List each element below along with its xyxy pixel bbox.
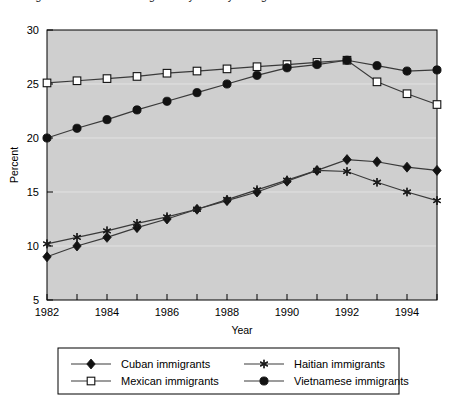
y-tick-label: 5 — [33, 294, 39, 306]
data-point — [223, 80, 231, 88]
legend-marker — [87, 377, 95, 385]
data-point — [373, 78, 381, 86]
data-point — [193, 67, 201, 75]
y-tick-label: 25 — [27, 78, 39, 90]
data-point — [133, 106, 141, 114]
data-point — [433, 66, 441, 74]
data-point — [403, 90, 411, 98]
chart-figure: Figure 1. Percent of immigrants by count… — [0, 0, 457, 404]
data-point — [43, 134, 51, 142]
data-point — [403, 67, 411, 75]
x-tick-label: 1984 — [95, 306, 119, 318]
line-chart: 51015202530 1982198419861988199019921994… — [0, 0, 457, 404]
data-point — [43, 79, 51, 87]
data-point — [73, 77, 81, 85]
y-tick-label: 20 — [27, 132, 39, 144]
x-tick-label: 1994 — [395, 306, 419, 318]
data-point — [343, 56, 351, 64]
legend-label: Vietnamese immigrants — [294, 375, 409, 387]
data-point — [433, 101, 441, 109]
data-point — [163, 69, 171, 77]
x-tick-label: 1990 — [275, 306, 299, 318]
legend-box — [58, 348, 399, 394]
y-tick-label: 15 — [27, 186, 39, 198]
legend-item-cuban-immigrants[interactable]: Cuban immigrants — [71, 358, 211, 370]
data-point — [133, 73, 141, 81]
x-tick-label: 1982 — [35, 306, 59, 318]
data-point — [253, 71, 261, 79]
data-point — [193, 89, 201, 97]
y-tick-label: 30 — [27, 24, 39, 36]
data-point — [313, 60, 321, 68]
legend-marker — [260, 377, 268, 385]
data-point — [373, 62, 381, 70]
data-point — [223, 65, 231, 73]
y-tick-label: 10 — [27, 240, 39, 252]
data-point — [73, 124, 81, 132]
data-point — [103, 75, 111, 83]
y-axis-title: Percent — [8, 147, 20, 183]
data-point — [253, 63, 261, 71]
x-axis-title: Year — [231, 324, 253, 336]
legend-label: Mexican immigrants — [121, 375, 219, 387]
legend-item-mexican-immigrants[interactable]: Mexican immigrants — [71, 375, 219, 387]
legend-label: Cuban immigrants — [121, 358, 211, 370]
x-tick-label: 1988 — [215, 306, 239, 318]
data-point — [103, 116, 111, 124]
x-tick-label: 1986 — [155, 306, 179, 318]
legend-label: Haitian immigrants — [294, 358, 386, 370]
data-point — [163, 97, 171, 105]
x-tick-label: 1992 — [335, 306, 359, 318]
data-point — [283, 64, 291, 72]
